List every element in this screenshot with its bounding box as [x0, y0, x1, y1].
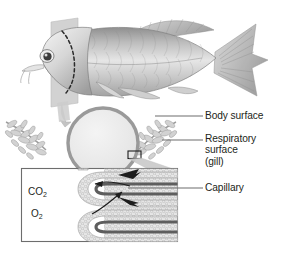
label-body-surface: Body surface — [205, 110, 263, 121]
co2-subscript: 2 — [43, 191, 47, 198]
figure-canvas: Body surface Respiratory surface (gill) … — [0, 0, 284, 256]
label-respiratory-line2: surface — [205, 144, 238, 155]
section-arrow — [57, 101, 71, 127]
fish-eye — [40, 50, 54, 63]
gill-arch-left — [4, 119, 47, 160]
co2-symbol: CO — [28, 186, 43, 197]
lamellae-detail-inset — [22, 160, 179, 244]
fish-snout — [22, 65, 44, 72]
label-respiratory-line1: Respiratory — [205, 133, 256, 144]
caudal-fin — [214, 24, 268, 96]
barbel — [21, 70, 25, 83]
label-capillary: Capillary — [205, 182, 244, 193]
o2-subscript: 2 — [39, 213, 43, 220]
label-respiratory-surface: Respiratory surface (gill) — [205, 133, 283, 167]
o2-symbol: O — [31, 208, 39, 219]
body-cross-section — [68, 108, 138, 178]
label-carbon-dioxide: CO2 — [28, 186, 47, 197]
label-respiratory-line3: (gill) — [205, 156, 224, 167]
label-oxygen: O2 — [31, 208, 43, 219]
barbel-2 — [29, 72, 30, 84]
